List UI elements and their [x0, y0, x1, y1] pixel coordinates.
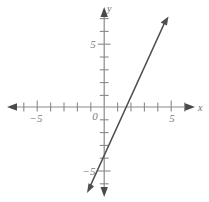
x-axis-group	[7, 101, 195, 112]
y-tick-label-5: 5	[90, 38, 96, 50]
coordinate-plane-svg: y x 0 −5 5 5 −5	[0, 0, 209, 202]
plotted-line-bottom-arrowhead	[87, 183, 94, 193]
y-axis-bottom-arrowhead	[101, 187, 108, 197]
y-tick-label--5: −5	[83, 165, 96, 177]
x-axis-label: x	[197, 102, 203, 113]
y-axis-group	[98, 7, 111, 197]
x-tick-label-5: 5	[169, 112, 175, 124]
x-axis-right-arrowhead	[185, 103, 195, 111]
x-axis-left-arrowhead	[7, 103, 17, 111]
origin-label: 0	[92, 110, 98, 122]
y-axis-label: y	[106, 3, 112, 14]
x-tick-label--5: −5	[30, 112, 43, 124]
plotted-line-group	[87, 17, 169, 194]
plotted-line-top-arrowhead	[161, 17, 169, 26]
line-graph-figure: y x 0 −5 5 5 −5	[0, 0, 209, 202]
plotted-line	[91, 23, 165, 186]
